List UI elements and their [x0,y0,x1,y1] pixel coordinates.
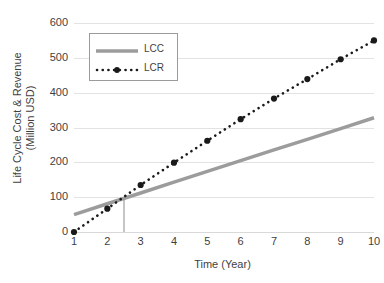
series-line-lcc [74,118,374,215]
data-point-lcr-year-9 [338,56,344,62]
gridline-0 [74,232,374,233]
data-point-lcr-year-3 [138,182,144,188]
y-tick-label-200: 200 [30,156,68,167]
x-tick-label-4: 4 [159,236,189,247]
data-point-lcr-year-7 [271,95,277,101]
legend-item-lcc: LCC [95,41,175,57]
data-point-lcr-year-8 [304,76,310,82]
x-tick-label-10: 10 [359,236,384,247]
data-point-lcr-year-2 [104,206,110,212]
x-tick-label-9: 9 [326,236,356,247]
y-tick-label-500: 500 [30,52,68,63]
y-tick-label-400: 400 [30,87,68,98]
legend-swatch-lcr-dotted-line-icon [95,62,139,74]
x-tick-label-5: 5 [192,236,222,247]
legend-item-lcr: LCR [95,60,175,76]
y-tick-label-300: 300 [30,122,68,133]
y-tick-label-600: 600 [30,17,68,28]
data-point-lcr-year-10 [371,37,377,43]
legend-swatch-lcc-line-icon [95,43,139,55]
x-tick-label-7: 7 [259,236,289,247]
x-tick-label-8: 8 [292,236,322,247]
data-point-lcr-year-4 [171,160,177,166]
y-axis-title-line1: Life Cycle Cost & Revenue [11,52,25,183]
legend-label-lcc: LCC [144,44,164,54]
x-tick-label-3: 3 [126,236,156,247]
x-tick-label-1: 1 [59,236,89,247]
x-axis-title: Time (Year) [70,258,375,270]
data-point-lcr-year-6 [238,116,244,122]
chart-container: Life Cycle Cost & Revenue (Million USD) … [0,0,384,283]
chart-legend: LCC LCR [89,33,178,81]
x-tick-label-6: 6 [226,236,256,247]
x-tick-label-2: 2 [92,236,122,247]
data-point-lcr-year-5 [204,138,210,144]
y-tick-label-100: 100 [30,191,68,202]
legend-label-lcr: LCR [144,63,164,73]
data-point-lcr-year-1 [71,229,77,235]
